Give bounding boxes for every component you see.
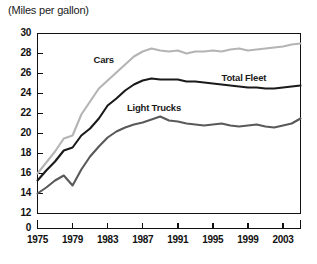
x-axis-tick-label: 1991	[158, 234, 198, 245]
y-axis-tick-label: 26	[5, 67, 31, 78]
series-label-cars: Cars	[94, 54, 114, 65]
y-axis-tick-label: 24	[5, 87, 31, 98]
y-axis-tick-label: 14	[5, 187, 31, 198]
series-line-light-trucks	[38, 117, 301, 194]
x-axis-tick-label: 1975	[18, 234, 58, 245]
x-axis-tick-label: 1983	[88, 234, 128, 245]
plot-area	[0, 0, 317, 264]
x-axis-tick-label: 1995	[193, 234, 233, 245]
y-axis-tick-label: 22	[5, 107, 31, 118]
fuel-economy-chart: (Miles per gallon) 012141618202224262830…	[0, 0, 317, 264]
y-axis-tick-label: 12	[5, 207, 31, 218]
y-axis-tick-label: 28	[5, 47, 31, 58]
series-label-light-trucks: Light Trucks	[127, 102, 181, 113]
x-axis-tick-label: 1979	[53, 234, 93, 245]
y-axis-tick-label: 30	[5, 27, 31, 38]
x-axis-tick-label: 1999	[228, 234, 268, 245]
series-line-total-fleet	[38, 79, 301, 181]
y-axis-tick-label: 20	[5, 127, 31, 138]
x-axis-tick-label: 2003	[263, 234, 303, 245]
y-axis-tick-label: 18	[5, 147, 31, 158]
series-label-total-fleet: Total Fleet	[222, 72, 267, 83]
x-axis-tick-label: 1987	[123, 234, 163, 245]
y-axis-tick-label: 0	[5, 222, 31, 233]
y-axis-tick-label: 16	[5, 167, 31, 178]
